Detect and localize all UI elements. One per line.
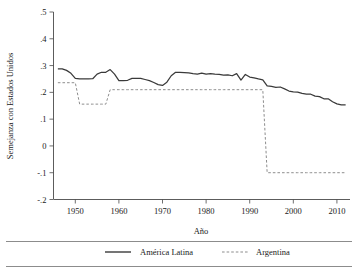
line-chart: .5.4.3.2.10-.1-.2 1950196019701980199020…	[0, 0, 358, 271]
x-tick-label: 1970	[154, 206, 171, 216]
chart-legend: América LatinaArgentina	[105, 247, 290, 257]
series-line-dashed	[58, 83, 346, 173]
x-tick-label: 1980	[198, 206, 215, 216]
y-tick-label: .5	[40, 7, 46, 17]
y-tick-label: .4	[40, 34, 47, 44]
y-tick-label: -.1	[37, 168, 46, 178]
x-axis-title: Año	[194, 226, 209, 236]
series-line-solid	[58, 69, 346, 105]
series-group	[58, 69, 346, 173]
x-tick-label: 2010	[328, 206, 345, 216]
x-axis-ticks: 1950196019701980199020002010	[67, 200, 346, 216]
y-tick-label: .2	[40, 87, 46, 97]
y-tick-label: .1	[40, 114, 46, 124]
x-tick-label: 1950	[67, 206, 84, 216]
y-tick-label: .3	[40, 61, 46, 71]
y-axis-title: Semejanza con Estados Unidos	[5, 53, 15, 159]
chart-figure: .5.4.3.2.10-.1-.2 1950196019701980199020…	[0, 0, 358, 271]
y-tick-label: -.2	[37, 195, 46, 205]
y-tick-label: 0	[42, 141, 46, 151]
y-axis-ticks: .5.4.3.2.10-.1-.2	[37, 7, 53, 205]
x-tick-label: 1990	[241, 206, 258, 216]
x-tick-label: 1960	[110, 206, 127, 216]
legend-label: América Latina	[140, 247, 193, 257]
x-tick-label: 2000	[285, 206, 302, 216]
legend-label: Argentina	[256, 247, 290, 257]
